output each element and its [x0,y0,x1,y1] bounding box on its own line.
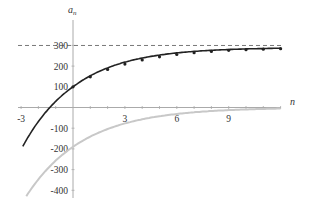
y-tick-label: 200 [54,62,69,72]
data-point [141,58,144,61]
series-a-markers [71,47,282,88]
data-point [210,50,213,53]
data-point [106,68,109,71]
chart: -3369300200100-100-200-300-400 n an [0,0,311,205]
y-tick-label: -400 [51,186,69,196]
data-point [175,53,178,56]
data-point [71,85,74,88]
data-point [279,47,282,50]
data-point [262,48,265,51]
data-point [244,48,247,51]
y-tick-label: -100 [51,124,69,134]
x-tick-label: -3 [17,114,25,124]
y-tick-label: 300 [54,41,69,51]
y-tick-label: 100 [54,82,69,92]
x-axis-label: n [290,96,295,107]
data-point [123,62,126,65]
data-point [158,55,161,58]
data-point [89,75,92,78]
series-b-curve [26,109,280,197]
x-tick-label: 9 [226,114,231,124]
data-point [193,51,196,54]
data-point [227,49,230,52]
y-tick-label: -300 [51,165,69,175]
y-axis-label: an [68,4,77,17]
